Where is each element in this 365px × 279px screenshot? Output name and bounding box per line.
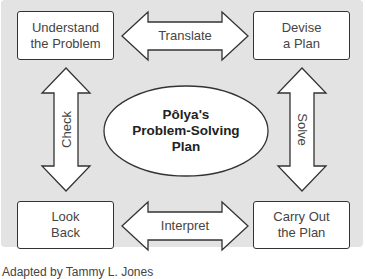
step-look-back: Look Back	[17, 201, 114, 249]
diagram-title: Pôlya's Problem-Solving Plan	[103, 86, 269, 176]
step-understand-the-problem: Understand the Problem	[17, 11, 114, 60]
step-label: Look Back	[51, 209, 80, 241]
step-devise-a-plan: Devise a Plan	[253, 11, 350, 60]
interpret-label: Interpret	[148, 218, 222, 233]
check-label: Check	[59, 111, 74, 149]
attribution-footer: Adapted by Tammy L. Jones	[2, 265, 153, 279]
diagram-title-text: Pôlya's Problem-Solving Plan	[132, 107, 239, 155]
step-label: Understand the Problem	[30, 20, 100, 52]
solve-label: Solve	[295, 111, 310, 149]
step-label: Devise a Plan	[282, 20, 322, 52]
step-carry-out-the-plan: Carry Out the Plan	[253, 201, 350, 249]
step-label: Carry Out the Plan	[273, 209, 329, 241]
translate-label: Translate	[148, 28, 222, 43]
